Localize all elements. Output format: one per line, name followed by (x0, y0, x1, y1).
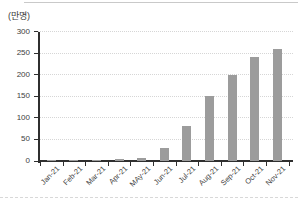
x-axis-tick (153, 162, 154, 166)
x-axis-tick (176, 162, 177, 166)
y-tick-label: 200 (0, 70, 30, 80)
gridline (38, 53, 293, 54)
y-tick-label: 50 (0, 134, 30, 144)
x-category-label: Oct-21 (243, 164, 265, 186)
x-category-label: Nov-21 (264, 164, 287, 187)
x-axis-tick (243, 162, 244, 166)
x-axis-tick (85, 162, 86, 166)
y-tick-label: 250 (0, 48, 30, 58)
y-tick-label: 150 (0, 91, 30, 101)
x-category-label: Jan-21 (39, 164, 62, 187)
x-axis-tick (198, 162, 199, 166)
bar (228, 75, 237, 161)
x-axis-tick (63, 162, 64, 166)
bar (273, 49, 282, 161)
bar (205, 96, 214, 161)
bar (182, 126, 191, 161)
x-axis-tick (221, 162, 222, 166)
x-category-label: Mar-21 (84, 164, 107, 187)
x-axis-tick (40, 162, 41, 166)
x-axis-tick (108, 162, 109, 166)
y-tick-label: 300 (0, 27, 30, 37)
bar (250, 57, 259, 161)
x-category-label: Jun-21 (152, 164, 175, 187)
bar (92, 160, 101, 161)
x-category-label: Aug-21 (196, 164, 219, 187)
x-axis-tick (130, 162, 131, 166)
y-axis-line (38, 32, 40, 163)
x-axis-tick (266, 162, 267, 166)
x-category-label: Feb-21 (61, 164, 84, 187)
y-tick-label: 100 (0, 113, 30, 123)
x-axis-tick (289, 162, 290, 166)
bottom-rule-line (0, 197, 298, 198)
y-tick-label: 0 (0, 156, 30, 166)
bar (115, 159, 124, 161)
bar (137, 158, 146, 161)
x-category-label: MAy-21 (128, 164, 153, 189)
bar (69, 160, 78, 161)
bar-chart: 050100150200250300Jan-21Feb-21Mar-21Apr-… (0, 0, 298, 206)
gridline (38, 31, 293, 32)
x-category-label: Jul-21 (176, 164, 197, 185)
x-category-label: Apr-21 (107, 164, 129, 186)
bar (160, 148, 169, 161)
x-category-label: Sep-21 (219, 164, 242, 187)
bar (47, 160, 56, 161)
